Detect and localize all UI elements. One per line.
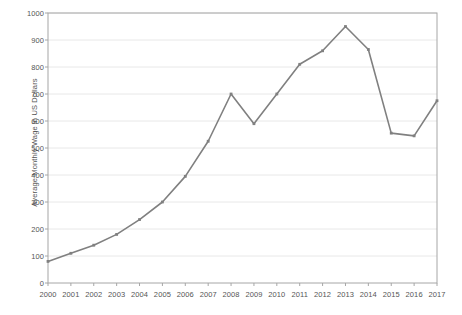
x-axis-tick-label: 2013 xyxy=(337,290,354,299)
x-axis-tick-label: 2015 xyxy=(383,290,400,299)
x-axis-tick-label: 2003 xyxy=(108,290,125,299)
x-axis-tick-label: 2017 xyxy=(428,290,445,299)
x-axis-tick-label: 2008 xyxy=(223,290,240,299)
x-axis-tick-label: 2004 xyxy=(131,290,148,299)
x-axis-tick-label: 2009 xyxy=(245,290,262,299)
x-axis-tick-label: 2002 xyxy=(85,290,102,299)
x-axis-tick-label: 2007 xyxy=(200,290,217,299)
x-axis-tick-label: 2016 xyxy=(406,290,423,299)
x-axis-tick-label: 2011 xyxy=(291,290,308,299)
x-axis-tick-label: 2012 xyxy=(314,290,331,299)
x-axis-tick-label: 2006 xyxy=(177,290,194,299)
line-chart: Average Monthly Wage in US Dollars 01002… xyxy=(0,0,462,315)
x-axis-tick-labels: 2000200120022003200420052006200720082009… xyxy=(0,0,462,315)
x-axis-tick-label: 2010 xyxy=(268,290,285,299)
x-axis-tick-label: 2005 xyxy=(154,290,171,299)
x-axis-tick-label: 2000 xyxy=(39,290,56,299)
x-axis-tick-label: 2014 xyxy=(360,290,377,299)
x-axis-tick-label: 2001 xyxy=(62,290,79,299)
